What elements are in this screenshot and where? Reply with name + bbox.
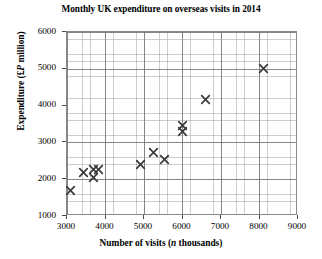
x-axis-tick-label: 8000 xyxy=(239,221,279,231)
chart-title: Monthly UK expenditure on overseas visit… xyxy=(0,4,322,14)
x-axis-tick-mark xyxy=(259,215,260,219)
y-axis-label-prefix: Expenditure (£ xyxy=(16,71,26,131)
x-axis-tick-label: 3000 xyxy=(46,221,86,231)
x-axis-tick-label: 6000 xyxy=(162,221,202,231)
x-axis-tick-mark xyxy=(182,215,183,219)
data-point-marker xyxy=(65,185,76,196)
x-axis-tick-mark xyxy=(143,215,144,219)
y-axis-tick-mark xyxy=(62,31,66,32)
data-point-marker xyxy=(148,147,159,158)
x-axis-tick-label: 5000 xyxy=(123,221,163,231)
y-axis-label-suffix: million) xyxy=(16,31,26,65)
y-axis-tick-label: 3000 xyxy=(22,136,56,146)
y-axis-tick-label: 6000 xyxy=(22,26,56,36)
data-point-marker xyxy=(135,159,146,170)
x-axis-tick-mark xyxy=(220,215,221,219)
x-axis-tick-mark xyxy=(297,215,298,219)
x-axis-tick-label: 7000 xyxy=(200,221,240,231)
data-point-marker xyxy=(258,63,269,74)
data-point-marker xyxy=(177,126,188,137)
x-axis-label-suffix: thousands) xyxy=(176,238,222,248)
x-axis-tick-label: 4000 xyxy=(85,221,125,231)
x-axis-label-prefix: Number of visits ( xyxy=(100,238,171,248)
y-axis-tick-mark xyxy=(62,68,66,69)
y-axis-tick-mark xyxy=(62,141,66,142)
x-axis-tick-label: 9000 xyxy=(277,221,317,231)
y-axis-tick-mark xyxy=(62,178,66,179)
data-point-marker xyxy=(88,172,99,183)
y-axis-tick-mark xyxy=(62,105,66,106)
y-axis-tick-label: 4000 xyxy=(22,99,56,109)
y-axis-tick-label: 1000 xyxy=(22,210,56,220)
x-axis-tick-mark xyxy=(105,215,106,219)
data-points-layer xyxy=(67,32,298,216)
x-axis-tick-mark xyxy=(66,215,67,219)
y-axis-tick-label: 5000 xyxy=(22,62,56,72)
y-axis-tick-label: 2000 xyxy=(22,173,56,183)
y-axis-label-variable: P xyxy=(16,65,26,71)
scatter-chart: Monthly UK expenditure on overseas visit… xyxy=(0,0,322,259)
y-axis-label: Expenditure (£P million) xyxy=(16,11,26,151)
x-axis-label: Number of visits (n thousands) xyxy=(0,238,322,248)
plot-area xyxy=(66,31,297,215)
data-point-marker xyxy=(200,94,211,105)
data-point-marker xyxy=(159,154,170,165)
